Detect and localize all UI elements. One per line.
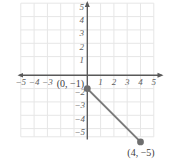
y-axis-arrow-up [85,1,90,7]
y-tick-label-neg5: −5 [74,127,85,136]
x-tick-label-neg3: −3 [42,78,53,87]
x-tick-label-neg4: −4 [29,78,40,87]
x-tick-label-1: 1 [98,78,103,87]
y-tick-label-2: 2 [80,42,85,51]
x-tick-label-2: 2 [112,78,117,87]
x-axis-arrow-right [158,73,164,78]
y-tick-label-neg3: −3 [74,101,85,110]
y-tick-label-5: 5 [80,2,85,11]
point-label-4-neg5: (4, −5) [127,148,154,158]
x-tick-label-3: 3 [125,78,130,87]
coordinate-plane-figure: −5 −4 −3 1 2 3 4 5 5 4 3 2 1 −2 −3 −4 −5… [0,0,171,162]
y-tick-label-3: 3 [80,29,85,38]
y-tick-label-4: 4 [80,15,85,24]
y-tick-label-1: 1 [80,55,85,64]
x-tick-label-4: 4 [138,78,143,87]
point-label-0-neg1: (0, −1) [57,79,84,89]
x-tick-label-5: 5 [152,78,157,87]
y-tick-label-neg4: −4 [74,114,85,123]
x-tick-label-neg5: −5 [16,78,27,87]
data-point-4-neg5 [137,139,144,146]
y-axis [85,1,90,140]
